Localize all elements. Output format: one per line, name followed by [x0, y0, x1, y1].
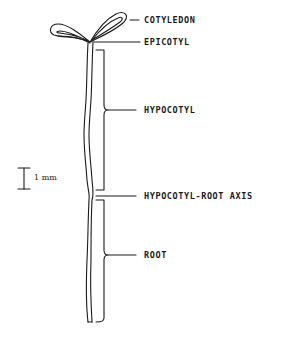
scale-bar [18, 168, 30, 189]
hypocotyl-root-axis-label: HYPOCOTYL-ROOT AXIS [144, 192, 253, 201]
right-cotyledon [90, 13, 126, 42]
root-bracket [96, 200, 136, 322]
scale-bar-label: 1 mm [34, 174, 57, 182]
epicotyl-label: EPICOTYL [144, 38, 190, 47]
cotyledon-label: COTYLEDON [144, 16, 195, 25]
stem [84, 43, 93, 322]
hypocotyl-bracket [96, 50, 136, 190]
root-label: ROOT [144, 251, 167, 260]
left-cotyledon [51, 24, 90, 43]
seedling-drawing [0, 0, 281, 339]
seedling-diagram: COTYLEDON EPICOTYL HYPOCOTYL HYPOCOTYL-R… [0, 0, 281, 339]
hypocotyl-label: HYPOCOTYL [144, 106, 195, 115]
